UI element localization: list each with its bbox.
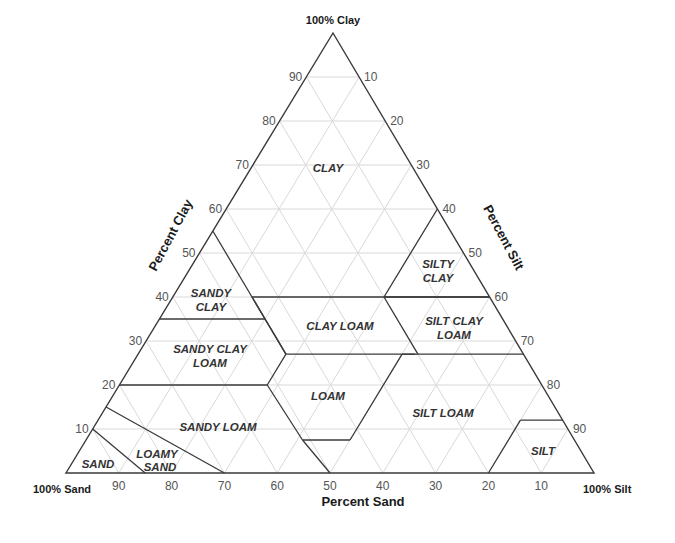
tick-label: 80 xyxy=(165,479,179,493)
tick-label: 30 xyxy=(129,334,143,348)
tick-label: 30 xyxy=(429,479,443,493)
region-label-loamy-sand: LOAMYSAND xyxy=(136,448,179,473)
region-label-loam: LOAM xyxy=(311,390,345,402)
tick-label: 50 xyxy=(323,479,337,493)
region-label-silt: SILT xyxy=(531,445,556,457)
grid-lines xyxy=(93,77,568,473)
tick-label: 80 xyxy=(547,378,561,392)
tick-label: 40 xyxy=(376,479,390,493)
tick-label: 50 xyxy=(469,246,483,260)
tick-label: 60 xyxy=(495,290,509,304)
tick-label: 40 xyxy=(155,290,169,304)
tick-label: 60 xyxy=(209,202,223,216)
tick-label: 10 xyxy=(364,70,378,84)
region-label-clay: CLAY xyxy=(313,162,345,174)
region-label-sandy-loam: SANDY LOAM xyxy=(179,421,257,433)
region-label-clay-loam: CLAY LOAM xyxy=(306,320,374,332)
corner-label-sand: 100% Sand xyxy=(33,483,91,495)
region-label-sand: SAND xyxy=(82,458,115,470)
axis-title-sand: Percent Sand xyxy=(321,494,404,509)
tick-label: 60 xyxy=(271,479,285,493)
tick-labels: 1020304050607080901020304050607080909080… xyxy=(75,70,586,493)
region-label-silty-clay: SILTYCLAY xyxy=(422,258,455,284)
tick-label: 10 xyxy=(535,479,549,493)
tick-label: 10 xyxy=(75,422,89,436)
tick-label: 50 xyxy=(182,246,196,260)
soil-texture-triangle: 100% Clay 100% Sand 100% Silt Percent Cl… xyxy=(0,0,675,543)
tick-label: 90 xyxy=(573,422,587,436)
tick-label: 20 xyxy=(390,114,404,128)
tick-label: 30 xyxy=(416,158,430,172)
region-label-silt-loam: SILT LOAM xyxy=(412,407,474,419)
tick-label: 20 xyxy=(102,378,116,392)
axis-title-silt: Percent Silt xyxy=(480,202,527,273)
corner-label-clay: 100% Clay xyxy=(306,14,361,26)
axis-title-clay: Percent Clay xyxy=(145,196,196,273)
tick-label: 80 xyxy=(262,114,276,128)
tick-label: 70 xyxy=(218,479,232,493)
tick-label: 70 xyxy=(236,158,250,172)
region-label-sandy-clay: SANDYCLAY xyxy=(191,287,233,313)
tick-label: 90 xyxy=(112,479,126,493)
corner-label-silt: 100% Silt xyxy=(583,483,632,495)
tick-label: 40 xyxy=(442,202,456,216)
tick-label: 90 xyxy=(289,70,303,84)
tick-label: 70 xyxy=(521,334,535,348)
tick-label: 20 xyxy=(482,479,496,493)
